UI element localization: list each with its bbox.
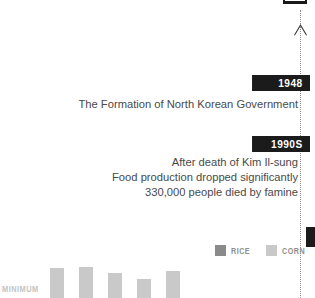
bar xyxy=(79,267,93,298)
top-cut-off-badge-inner xyxy=(285,0,305,1)
production-bar-chart xyxy=(0,190,315,298)
arrow-up-icon xyxy=(293,24,308,36)
era-badge-1948[interactable]: 1948 xyxy=(252,75,310,91)
bar xyxy=(108,273,122,298)
timeline-infographic: 1948 The Formation of North Korean Gover… xyxy=(0,0,315,298)
era-badge-1990s[interactable]: 1990S xyxy=(252,136,310,152)
event-description-line-2: Food production dropped significantly xyxy=(112,170,298,185)
bar xyxy=(137,279,151,298)
bar xyxy=(166,271,180,298)
bar xyxy=(50,268,64,298)
event-description-line-1: After death of Kim Il-sung xyxy=(112,155,298,170)
event-description-1948: The Formation of North Korean Government xyxy=(78,97,298,112)
